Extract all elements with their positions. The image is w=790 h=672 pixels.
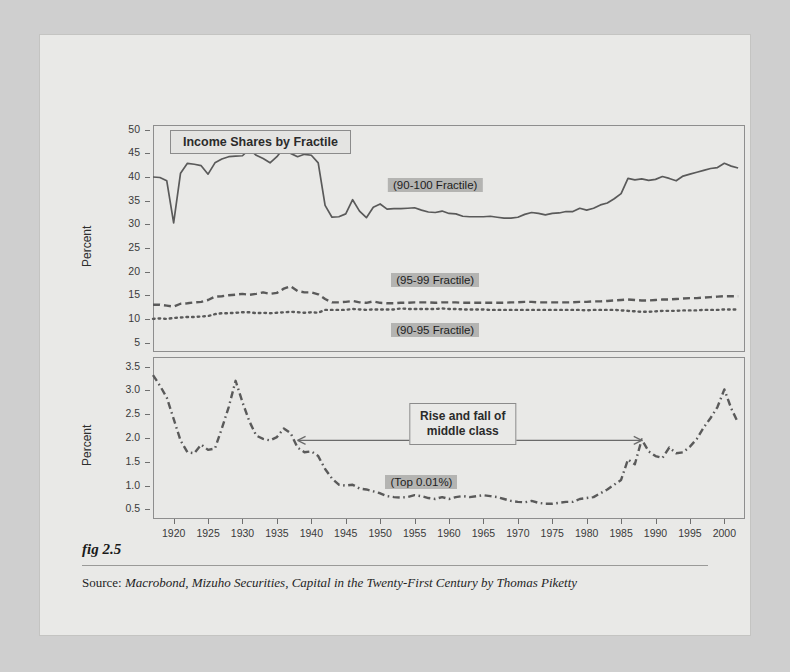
y-tick-mark bbox=[145, 224, 150, 225]
y-tick-label: 15 bbox=[88, 288, 140, 300]
x-tick-mark bbox=[415, 519, 416, 524]
x-tick-label: 2000 bbox=[713, 527, 736, 539]
y-tick-label: 5 bbox=[88, 336, 140, 348]
y-tick-mark bbox=[145, 130, 150, 131]
x-tick-label: 1935 bbox=[265, 527, 288, 539]
y-tick-mark bbox=[145, 319, 150, 320]
y-tick-label: 10 bbox=[88, 312, 140, 324]
x-tick-mark bbox=[311, 519, 312, 524]
x-tick-label: 1965 bbox=[472, 527, 495, 539]
y-tick-mark bbox=[145, 272, 150, 273]
y-tick-mark bbox=[145, 343, 150, 344]
x-tick-label: 1995 bbox=[678, 527, 701, 539]
x-tick-mark bbox=[277, 519, 278, 524]
y-tick-label: 3.5 bbox=[88, 360, 140, 372]
legend-tag-90-95-fractile: (90-95 Fractile) bbox=[391, 323, 479, 337]
y-tick-mark bbox=[145, 390, 150, 391]
x-tick-mark bbox=[656, 519, 657, 524]
x-tick-mark bbox=[518, 519, 519, 524]
x-tick-label: 1975 bbox=[541, 527, 564, 539]
y-tick-mark bbox=[145, 201, 150, 202]
series-path bbox=[153, 286, 738, 306]
y-tick-mark bbox=[145, 248, 150, 249]
x-tick-label: 1930 bbox=[231, 527, 254, 539]
x-tick-mark bbox=[690, 519, 691, 524]
x-tick-label: 1920 bbox=[162, 527, 185, 539]
x-tick-label: 1945 bbox=[334, 527, 357, 539]
x-tick-label: 1980 bbox=[575, 527, 598, 539]
callout-line-2: middle class bbox=[420, 424, 505, 439]
legend-tag-95-99-fractile: (95-99 Fractile) bbox=[391, 273, 479, 287]
y-tick-mark bbox=[145, 153, 150, 154]
middle-class-callout: Rise and fall of middle class bbox=[409, 403, 516, 445]
source-prefix: Source: bbox=[82, 575, 122, 590]
chart-title: Income Shares by Fractile bbox=[170, 130, 351, 154]
x-tick-label: 1925 bbox=[196, 527, 219, 539]
y-tick-mark bbox=[145, 177, 150, 178]
y-tick-label: 2.5 bbox=[88, 407, 140, 419]
x-tick-label: 1950 bbox=[368, 527, 391, 539]
x-tick-mark bbox=[346, 519, 347, 524]
x-tick-mark bbox=[449, 519, 450, 524]
x-tick-label: 1960 bbox=[437, 527, 460, 539]
source-line: Source: Macrobond, Mizuho Securities, Ca… bbox=[82, 575, 577, 591]
chart-figure: Percent 5101520253035404550 Income Share… bbox=[40, 35, 750, 635]
x-tick-mark bbox=[483, 519, 484, 524]
y-tick-mark bbox=[145, 462, 150, 463]
x-tick-label: 1940 bbox=[300, 527, 323, 539]
figure-label: fig 2.5 bbox=[82, 541, 121, 558]
x-tick-mark bbox=[621, 519, 622, 524]
y-tick-label: 1.5 bbox=[88, 455, 140, 467]
y-tick-label: 50 bbox=[88, 123, 140, 135]
y-tick-label: 1.0 bbox=[88, 479, 140, 491]
y-tick-label: 45 bbox=[88, 146, 140, 158]
x-tick-label: 1985 bbox=[609, 527, 632, 539]
x-tick-label: 1955 bbox=[403, 527, 426, 539]
y-tick-label: 3.0 bbox=[88, 383, 140, 395]
legend-tag-90-100-fractile: (90-100 Fractile) bbox=[388, 178, 482, 192]
caption-divider bbox=[82, 565, 708, 566]
x-tick-label: 1970 bbox=[506, 527, 529, 539]
x-tick-mark bbox=[724, 519, 725, 524]
callout-line-1: Rise and fall of bbox=[420, 409, 505, 424]
x-tick-mark bbox=[174, 519, 175, 524]
y-tick-label: 40 bbox=[88, 170, 140, 182]
x-tick-label: 1990 bbox=[644, 527, 667, 539]
y-tick-label: 35 bbox=[88, 194, 140, 206]
x-tick-mark bbox=[587, 519, 588, 524]
y-tick-label: 25 bbox=[88, 241, 140, 253]
y-tick-mark bbox=[145, 509, 150, 510]
y-tick-mark bbox=[145, 438, 150, 439]
x-tick-mark bbox=[380, 519, 381, 524]
y-tick-label: 0.5 bbox=[88, 502, 140, 514]
y-tick-mark bbox=[145, 486, 150, 487]
x-tick-mark bbox=[242, 519, 243, 524]
series-path bbox=[153, 308, 738, 318]
source-text: Macrobond, Mizuho Securities, Capital in… bbox=[125, 575, 577, 590]
y-tick-mark bbox=[145, 295, 150, 296]
y-tick-mark bbox=[145, 414, 150, 415]
y-tick-label: 20 bbox=[88, 265, 140, 277]
x-tick-mark bbox=[552, 519, 553, 524]
arrow-right bbox=[504, 436, 642, 444]
y-tick-mark bbox=[145, 367, 150, 368]
series-canvas-top bbox=[153, 125, 745, 352]
x-tick-mark bbox=[208, 519, 209, 524]
y-tick-label: 30 bbox=[88, 217, 140, 229]
y-tick-label: 2.0 bbox=[88, 431, 140, 443]
figure-page: Percent 5101520253035404550 Income Share… bbox=[40, 35, 750, 635]
